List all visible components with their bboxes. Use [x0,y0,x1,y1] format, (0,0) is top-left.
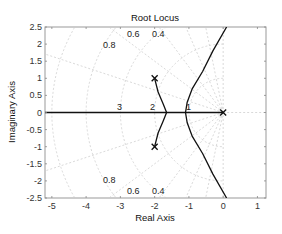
x-tick-label: -5 [48,201,56,211]
root-locus-chart: -5-4-3-2-101 2.521.510.50-0.5-1-1.5-2-2.… [0,0,282,234]
y-tick-label: -0.5 [26,125,42,135]
damping-label-0.6-bottom: 0.6 [127,186,140,196]
y-tick-label: 2 [37,39,42,49]
wn-label-2: 2 [150,102,155,112]
y-tick-label: 0 [37,108,42,118]
y-tick-label: 1.5 [29,56,42,66]
chart-title: Root Locus [131,12,179,23]
y-tick-label: -1 [34,142,42,152]
x-tick-label: -2 [151,201,159,211]
wn-label-3: 3 [117,102,122,112]
damping-label-0.8-bottom: 0.8 [103,175,116,185]
damping-label-0.4-bottom: 0.4 [152,186,165,196]
x-tick-label: -4 [82,201,90,211]
x-tick-label: 1 [255,201,260,211]
y-tick-label: 2.5 [29,22,42,32]
y-tick-label: -1.5 [26,159,42,169]
damping-label-0.4-top: 0.4 [152,29,165,39]
x-tick-label: -1 [185,201,193,211]
x-tick-label: -3 [116,201,124,211]
damping-label-0.8-top: 0.8 [103,40,116,50]
y-axis-label: Imaginary Axis [6,81,17,143]
y-tick-label: 0.5 [29,90,42,100]
y-tick-label: -2.5 [26,193,42,203]
y-tick-label: 1 [37,73,42,83]
damping-label-0.6-top: 0.6 [127,29,140,39]
x-axis-label: Real Axis [135,212,175,223]
y-tick-label: -2 [34,176,42,186]
x-tick-label: 0 [221,201,226,211]
wn-label-1: 1 [186,102,191,112]
